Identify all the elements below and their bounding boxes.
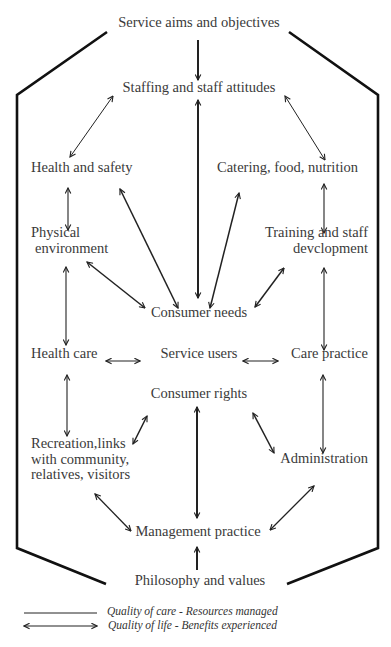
node-physical-line2: environment <box>35 240 108 257</box>
node-health-safety: Health and safety <box>31 159 132 176</box>
node-philosophy-values: Philosophy and values <box>135 572 266 589</box>
node-administration: Administration <box>280 450 368 467</box>
legend-symbols <box>24 613 97 626</box>
node-recreation-line1: Recreation,links <box>31 435 126 452</box>
node-health-care: Health care <box>31 345 97 362</box>
node-catering: Catering, food, nutrition <box>217 159 358 176</box>
node-physical-line1: Physical <box>31 224 80 241</box>
legend-quality-of-care: Quality of care - Resources managed <box>107 605 278 617</box>
node-training-line1: Training and staff <box>265 224 368 241</box>
node-consumer-rights: Consumer rights <box>151 385 247 402</box>
legend-quality-of-life: Quality of life - Benefits experienced <box>108 619 277 631</box>
node-service-aims: Service aims and objectives <box>118 14 279 31</box>
node-staffing: Staffing and staff attitudes <box>123 79 276 96</box>
node-service-users: Service users <box>161 345 238 362</box>
node-management-practice: Management practice <box>135 523 260 540</box>
node-consumer-needs: Consumer needs <box>151 304 247 321</box>
node-training-line2: devclopment <box>293 240 368 257</box>
node-recreation-line3: relatives, visitors <box>31 466 130 483</box>
diagram-canvas <box>0 0 391 647</box>
node-care-practice: Care practice <box>291 345 368 362</box>
